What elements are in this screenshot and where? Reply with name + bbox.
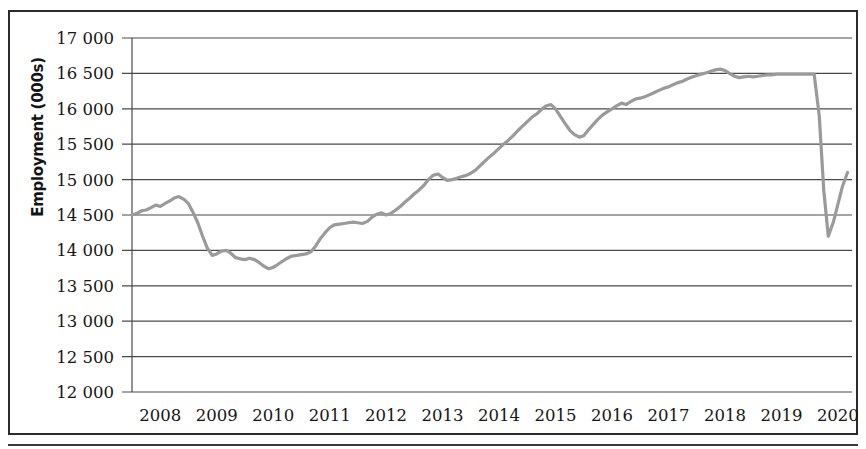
data-series-layer [132,69,847,269]
plot-area [0,0,866,449]
employment-chart-figure: Employment (000s) 17 00016 50016 00015 5… [0,0,866,449]
gridlines [122,38,852,392]
data-line-employment [132,69,847,269]
